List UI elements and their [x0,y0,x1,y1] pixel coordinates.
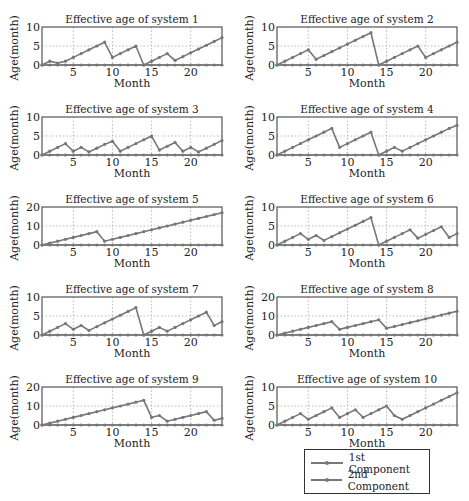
y-tick-label: 10 [261,381,275,394]
x-axis-label: Month [114,437,150,450]
y-axis-label: Age(month) [243,195,256,262]
x-axis-label: Month [114,77,150,90]
y-tick-label: 0 [268,149,275,162]
subplot-system-6: Effective age of system 651015200510Mont… [243,193,459,270]
x-tick-label: 5 [305,426,312,439]
x-tick-label: 20 [184,246,198,259]
y-axis-label: Age(month) [8,15,21,82]
series-2nd-component [275,124,458,157]
x-axis-label: Month [349,257,385,270]
x-tick-label: 20 [184,336,198,349]
series-2nd-component [275,310,458,337]
x-axis-label: Month [114,347,150,360]
x-tick-label: 20 [419,66,433,79]
y-axis-label: Age(month) [8,375,21,442]
y-tick-label: 10 [261,21,275,34]
y-tick-label: 0 [268,239,275,252]
y-tick-label: 0 [33,149,40,162]
x-axis-label: Month [114,167,150,180]
x-tick-label: 5 [305,246,312,259]
y-tick-label: 0 [268,329,275,342]
y-tick-label: 10 [26,400,40,413]
y-tick-label: 10 [26,21,40,34]
legend: 1st Component 2nd Component [304,449,430,494]
subplot-system-9: Effective age of system 9510152001020Mon… [8,373,224,450]
plot-area [277,207,457,245]
subplot-system-5: Effective age of system 5510152001020Mon… [8,193,224,270]
y-tick-label: 20 [26,201,40,214]
series-2nd-component [40,399,223,427]
y-tick-label: 5 [268,400,275,413]
series-2nd-component [40,36,223,67]
subplot-system-1: Effective age of system 151015200510Mont… [8,13,224,90]
y-tick-label: 0 [33,59,40,72]
x-tick-label: 5 [305,66,312,79]
x-tick-label: 20 [184,426,198,439]
series-2nd-component [275,391,458,427]
y-tick-label: 10 [26,111,40,124]
y-tick-label: 20 [26,381,40,394]
x-axis-label: Month [349,347,385,360]
x-tick-label: 5 [70,426,77,439]
subplot-title: Effective age of system 3 [65,103,198,115]
y-tick-label: 0 [33,239,40,252]
x-axis-label: Month [114,257,150,270]
subplot-system-7: Effective age of system 751015200510Mont… [8,283,224,360]
y-tick-label: 5 [33,310,40,323]
y-tick-label: 0 [33,419,40,432]
figure: Effective age of system 151015200510Mont… [0,0,469,501]
y-tick-label: 5 [268,130,275,143]
y-axis-label: Age(month) [243,375,256,442]
subplot-title: Effective age of system 7 [65,283,198,295]
y-tick-label: 5 [268,40,275,53]
subplot-title: Effective age of system 1 [65,13,198,25]
x-tick-label: 20 [419,246,433,259]
plot-area [42,387,222,425]
subplot-title: Effective age of system 4 [300,103,434,115]
y-tick-label: 5 [33,130,40,143]
y-tick-label: 0 [268,419,275,432]
subplot-title: Effective age of system 8 [300,283,433,295]
x-axis-label: Month [349,77,385,90]
series-2nd-component [40,134,223,156]
legend-line-marker-icon [311,462,343,464]
y-tick-label: 10 [261,310,275,323]
y-tick-label: 10 [261,111,275,124]
x-tick-label: 20 [419,426,433,439]
subplot-system-10: Effective age of system 1051015200510Mon… [243,373,459,450]
x-axis-label: Month [349,167,385,180]
x-tick-label: 20 [419,336,433,349]
subplot-system-2: Effective age of system 251015200510Mont… [243,13,459,90]
x-tick-label: 20 [184,156,198,169]
subplot-system-8: Effective age of system 8510152001020Mon… [243,283,459,360]
y-tick-label: 10 [26,291,40,304]
subplot-title: Effective age of system 2 [300,13,433,25]
plot-area [277,297,457,335]
plot-area [277,27,457,65]
y-tick-label: 5 [33,40,40,53]
plot-area [42,207,222,245]
y-tick-label: 0 [268,59,275,72]
subplot-title: Effective age of system 6 [300,193,434,205]
y-tick-label: 20 [261,291,275,304]
y-tick-label: 10 [261,201,275,214]
x-tick-label: 5 [305,336,312,349]
series-2nd-component [275,216,458,247]
y-axis-label: Age(month) [8,105,21,172]
x-tick-label: 5 [70,66,77,79]
y-axis-label: Age(month) [243,105,256,172]
series-2nd-component [40,211,223,247]
subplot-title: Effective age of system 9 [65,373,198,385]
x-tick-label: 5 [70,246,77,259]
x-tick-label: 20 [184,66,198,79]
x-tick-label: 20 [419,156,433,169]
y-axis-label: Age(month) [8,285,21,352]
legend-entry-2nd-component: 2nd Component [311,473,429,487]
plot-area [277,117,457,155]
subplot-title: Effective age of system 5 [65,193,198,205]
x-tick-label: 5 [305,156,312,169]
x-tick-label: 5 [70,336,77,349]
plot-area [42,297,222,335]
y-tick-label: 0 [33,329,40,342]
subplot-system-3: Effective age of system 351015200510Mont… [8,103,224,180]
